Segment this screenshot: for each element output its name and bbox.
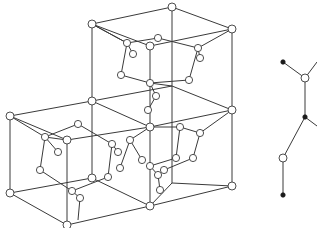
atomic-bond bbox=[198, 29, 232, 48]
open-atom-icon bbox=[301, 74, 309, 82]
atomic-bond bbox=[150, 80, 189, 83]
interior-atom-icon bbox=[185, 76, 192, 83]
interior-atom-icon bbox=[123, 39, 130, 46]
chain-bonds bbox=[283, 62, 317, 195]
cube-edge bbox=[172, 86, 232, 110]
interior-atom-icon bbox=[172, 154, 179, 161]
corner-atom-icon bbox=[6, 112, 14, 120]
cube-edge bbox=[92, 24, 150, 46]
atomic-bond bbox=[121, 75, 150, 83]
interior-atom-icon bbox=[194, 44, 201, 51]
interior-atom-icon bbox=[154, 34, 161, 41]
interior-atom-icon bbox=[160, 166, 167, 173]
interior-atom-icon bbox=[104, 173, 111, 180]
interior-atom-icon bbox=[189, 154, 196, 161]
interior-atom-icon bbox=[138, 156, 145, 163]
corner-atom-icon bbox=[168, 3, 176, 11]
cube-edge bbox=[10, 193, 67, 225]
interior-atom-icon bbox=[156, 186, 163, 193]
atomic-bond bbox=[189, 48, 198, 80]
chain-bond bbox=[283, 117, 305, 158]
atomic-bond bbox=[121, 43, 127, 75]
interior-atom-icon bbox=[129, 50, 136, 57]
interior-atom-icon bbox=[176, 123, 183, 130]
corner-atom-icon bbox=[63, 221, 71, 228]
cube-edge bbox=[10, 116, 67, 140]
lattice-atoms bbox=[6, 3, 236, 228]
cube-edge bbox=[172, 183, 232, 186]
corner-atom-icon bbox=[146, 123, 154, 131]
interior-atom-icon bbox=[144, 106, 151, 113]
crystal-structure-diagram bbox=[0, 0, 317, 228]
cube-edge bbox=[92, 7, 172, 24]
cube-edge bbox=[92, 86, 172, 101]
corner-atom-icon bbox=[228, 106, 236, 114]
atomic-bond bbox=[10, 116, 45, 137]
interior-atom-icon bbox=[36, 166, 43, 173]
cube-edge bbox=[172, 7, 232, 29]
interior-atom-icon bbox=[117, 71, 124, 78]
corner-atom-icon bbox=[228, 182, 236, 190]
atomic-bond bbox=[176, 127, 180, 158]
atomic-bond bbox=[108, 144, 112, 177]
cube-edge bbox=[92, 178, 150, 206]
open-atom-icon bbox=[279, 154, 287, 162]
corner-atom-icon bbox=[6, 189, 14, 197]
interior-atom-icon bbox=[68, 187, 75, 194]
interior-atom-icon bbox=[126, 136, 133, 143]
corner-atom-icon bbox=[88, 20, 96, 28]
corner-atom-icon bbox=[88, 174, 96, 182]
corner-atom-icon bbox=[88, 97, 96, 105]
atomic-bond bbox=[40, 137, 45, 170]
interior-atom-icon bbox=[108, 140, 115, 147]
corner-atom-icon bbox=[146, 202, 154, 210]
interior-atom-icon bbox=[154, 171, 161, 178]
interior-atom-icon bbox=[74, 120, 81, 127]
corner-atom-icon bbox=[228, 25, 236, 33]
interior-atom-icon bbox=[41, 133, 48, 140]
interior-atom-icon bbox=[54, 148, 61, 155]
atomic-bond bbox=[92, 24, 127, 43]
interior-atom-icon bbox=[114, 148, 121, 155]
interior-atom-icon bbox=[196, 129, 203, 136]
atomic-bond bbox=[45, 124, 78, 137]
interior-atom-icon bbox=[146, 79, 153, 86]
cube-edge bbox=[67, 127, 150, 140]
cube-edge bbox=[92, 101, 150, 127]
corner-atom-icon bbox=[63, 136, 71, 144]
cube-edge bbox=[150, 29, 232, 46]
interior-bonds bbox=[10, 24, 232, 220]
interior-atom-icon bbox=[196, 54, 203, 61]
diamond-lattice-figure bbox=[0, 0, 317, 228]
interior-atom-icon bbox=[152, 92, 159, 99]
interior-atom-icon bbox=[146, 162, 153, 169]
filled-atom-icon bbox=[281, 60, 285, 64]
filled-atom-icon bbox=[281, 193, 285, 197]
interior-atom-icon bbox=[116, 164, 123, 171]
cube-edge bbox=[10, 178, 92, 193]
interior-atom-icon bbox=[76, 194, 83, 201]
cube-edge bbox=[10, 101, 92, 116]
filled-atom-icon bbox=[303, 115, 307, 119]
corner-atom-icon bbox=[146, 42, 154, 50]
